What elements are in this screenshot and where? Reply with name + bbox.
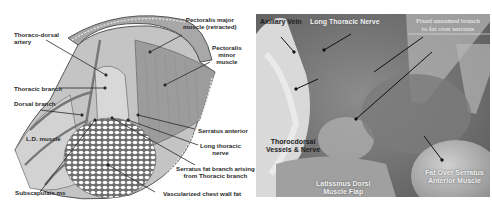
intraoperative-photo: Axillary Vein Long Thoracic Nerve Fixed … [256, 14, 490, 197]
label-line: Pectoralis major [183, 16, 237, 23]
label-line: nerve [200, 149, 241, 156]
label-pectoralis-minor: Pectoralis minor muscle [212, 44, 242, 65]
label-dorsal-branch: Dorsal branch [14, 100, 56, 107]
label-long-thoracic-nerve: Long thoracic nerve [200, 142, 241, 156]
anatomical-illustration: Thoraco-dorsal artery Pectoralis major m… [0, 0, 256, 208]
label-line: muscle [212, 58, 242, 65]
label-line: Thorocdorsal [266, 138, 320, 146]
label-line: artery [14, 38, 59, 45]
label-fat-over-serratus: Fat Over Serratus Anterior Muscle [425, 169, 484, 185]
label-line: Vessels & Nerve [266, 146, 320, 154]
label-axillary-vein: Axillary Vein [260, 18, 302, 26]
label-vascularized-fat: Vascularized chest wall fat [163, 190, 241, 197]
label-fixed-branch: Fixed unnamed branch to fat over serratu… [406, 17, 490, 33]
label-line: Fixed unnamed branch [406, 17, 490, 25]
label-line: to fat over serratus [406, 25, 490, 33]
label-thoracic-branch: Thoracic branch [14, 85, 62, 92]
label-line: Serratus fat branch arising [176, 165, 255, 172]
label-thoraco-dorsal-artery: Thoraco-dorsal artery [14, 31, 59, 45]
label-serratus-fat-branch: Serratus fat branch arising from Thoraci… [176, 165, 255, 179]
label-line: Latissmus Dorsi [316, 180, 370, 188]
label-line: minor [212, 51, 242, 58]
label-line: Pectoralis [212, 44, 242, 51]
label-line: from Thoracic branch [176, 172, 255, 179]
label-thorocdorsal: Thorocdorsal Vessels & Nerve [266, 138, 320, 154]
label-subscapularis: Subscapulais ms [15, 189, 66, 196]
label-pectoralis-major: Pectoralis major muscle (retracted) [183, 16, 237, 30]
label-line: Long thoracic [200, 142, 241, 149]
label-line: Anterior Muscle [425, 177, 484, 185]
label-line: Fat Over Serratus [425, 169, 484, 177]
label-line: Muscle Flap [316, 188, 370, 196]
label-long-thoracic-nerve-photo: Long Thoracic Nerve [310, 18, 380, 26]
label-serratus-anterior: Serratus anterior [198, 127, 248, 134]
label-ld-muscle: L.D. muscle [26, 135, 61, 142]
label-line: muscle (retracted) [183, 23, 237, 30]
label-latissimus: Latissmus Dorsi Muscle Flap [316, 180, 370, 196]
label-line: Thoraco-dorsal [14, 31, 59, 38]
